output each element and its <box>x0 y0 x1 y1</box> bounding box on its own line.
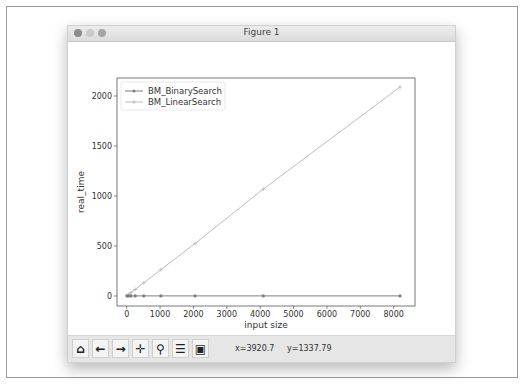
data-point[interactable] <box>159 294 162 297</box>
data-point[interactable] <box>398 294 401 297</box>
back-button[interactable]: ← <box>92 339 109 358</box>
line-chart[interactable]: 0100020003000400050006000700080000500100… <box>68 42 455 338</box>
cursor-y-coordinate: y=1337.79 <box>287 344 332 353</box>
y-tick-label: 1500 <box>92 142 112 151</box>
y-tick-label: 0 <box>107 292 112 301</box>
x-tick-label: 4000 <box>250 310 270 319</box>
y-tick-label: 500 <box>97 242 112 251</box>
x-tick-label: 0 <box>124 310 129 319</box>
home-icon: ⌂ <box>76 343 85 355</box>
y-tick-label: 2000 <box>92 92 112 101</box>
cursor-x-coordinate: x=3920.7 <box>235 344 274 353</box>
y-axis-label: real_time <box>76 171 86 213</box>
plot-area[interactable] <box>117 78 415 306</box>
x-tick-label: 8000 <box>383 310 403 319</box>
x-tick-label: 2000 <box>183 310 203 319</box>
sliders-icon: ☰ <box>175 343 186 355</box>
move-icon: ✛ <box>135 343 145 355</box>
y-tick-label: 1000 <box>92 192 112 201</box>
configure-subplots-button[interactable]: ☰ <box>172 339 189 358</box>
x-tick-label: 1000 <box>150 310 170 319</box>
title-bar[interactable]: Figure 1 <box>68 26 455 42</box>
x-tick-label: 7000 <box>350 310 370 319</box>
x-tick-label: 6000 <box>317 310 337 319</box>
window-title: Figure 1 <box>68 27 455 37</box>
figure-window: Figure 1 0100020003000400050006000700080… <box>67 25 456 363</box>
x-axis-label: input size <box>244 320 288 330</box>
data-point[interactable] <box>193 294 196 297</box>
x-tick-label: 5000 <box>283 310 303 319</box>
legend-marker <box>133 90 136 93</box>
zoom-button[interactable]: ⚲ <box>152 339 169 358</box>
magnifier-icon: ⚲ <box>156 343 165 355</box>
data-point[interactable] <box>262 294 265 297</box>
data-point[interactable] <box>129 294 132 297</box>
arrow-left-icon: ← <box>95 343 105 355</box>
floppy-disk-icon: ▣ <box>195 343 206 355</box>
legend-label: BM_BinarySearch <box>148 86 222 96</box>
arrow-right-icon: → <box>115 343 125 355</box>
x-tick-label: 3000 <box>217 310 237 319</box>
data-point[interactable] <box>134 294 137 297</box>
save-button[interactable]: ▣ <box>192 339 209 358</box>
home-button[interactable]: ⌂ <box>72 339 89 358</box>
data-point[interactable] <box>142 294 145 297</box>
figure-canvas[interactable]: 0100020003000400050006000700080000500100… <box>68 42 455 338</box>
pan-button[interactable]: ✛ <box>132 339 149 358</box>
legend-label: BM_LinearSearch <box>148 97 221 107</box>
navigation-toolbar: ⌂←→✛⚲☰▣ x=3920.7 y=1337.79 <box>68 335 455 362</box>
forward-button[interactable]: → <box>112 339 129 358</box>
